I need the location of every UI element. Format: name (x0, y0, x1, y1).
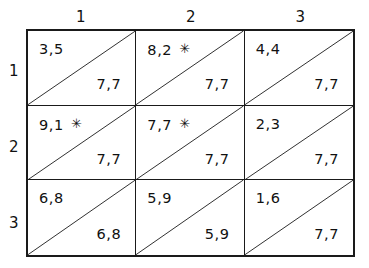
payoff-upper-left: 7,7✳ (147, 117, 190, 133)
payoff-lower-right: 7,7 (96, 77, 121, 92)
payoff-lower-right: 7,7 (96, 152, 121, 167)
row-header-1: 1 (4, 62, 24, 80)
payoff-lower-right: 7,7 (314, 77, 339, 92)
payoff-upper-left: 8,2✳ (147, 42, 190, 58)
payoff-lower-right: 5,9 (205, 227, 230, 242)
matrix-cell-r2c2: 7,7✳ 7,7 (136, 106, 244, 181)
matrix-cell-r1c3: 4,4 7,7 (245, 31, 353, 106)
payoff-upper-left-value: 2,3 (256, 116, 281, 132)
payoff-upper-left-value: 8,2 (147, 42, 172, 58)
payoff-upper-left: 1,6 (256, 191, 281, 206)
payoff-lower-right: 7,7 (205, 77, 230, 92)
matrix-cell-r1c1: 3,5 7,7 (28, 31, 136, 106)
matrix-grid: 3,5 7,7 8,2✳ 7,7 4,4 7,7 (26, 29, 355, 257)
matrix-cell-r3c2: 5,9 5,9 (136, 180, 244, 255)
payoff-upper-left-value: 6,8 (39, 190, 64, 206)
payoff-upper-left: 4,4 (256, 42, 281, 57)
matrix-cell-r3c1: 6,8 6,8 (28, 180, 136, 255)
equilibrium-star-icon: ✳ (71, 117, 83, 130)
payoff-upper-left: 5,9 (147, 191, 172, 206)
payoff-upper-left-value: 9,1 (39, 117, 64, 133)
equilibrium-star-icon: ✳ (179, 42, 191, 55)
payoff-upper-left: 3,5 (39, 42, 64, 57)
equilibrium-star-icon: ✳ (179, 117, 191, 130)
payoff-upper-left-value: 1,6 (256, 190, 281, 206)
payoff-lower-right: 7,7 (205, 152, 230, 167)
row-header-2: 2 (4, 138, 24, 156)
matrix-cell-r3c3: 1,6 7,7 (245, 180, 353, 255)
payoff-upper-left-value: 3,5 (39, 41, 64, 57)
column-header-2: 2 (136, 8, 246, 26)
payoff-lower-right: 7,7 (314, 152, 339, 167)
payoff-upper-left-value: 4,4 (256, 41, 281, 57)
payoff-upper-left-value: 7,7 (147, 117, 172, 133)
payoff-upper-left: 9,1✳ (39, 117, 82, 133)
payoff-matrix-figure: 1 2 3 1 2 3 3,5 7,7 8,2✳ 7,7 (0, 0, 369, 268)
column-header-3: 3 (246, 8, 355, 26)
payoff-upper-left: 6,8 (39, 191, 64, 206)
matrix-cell-r2c1: 9,1✳ 7,7 (28, 106, 136, 181)
matrix-cell-r1c2: 8,2✳ 7,7 (136, 31, 244, 106)
column-header-1: 1 (26, 8, 136, 26)
payoff-lower-right: 6,8 (96, 227, 121, 242)
row-header-3: 3 (4, 214, 24, 232)
payoff-upper-left: 2,3 (256, 117, 281, 132)
matrix-cell-r2c3: 2,3 7,7 (245, 106, 353, 181)
payoff-lower-right: 7,7 (314, 227, 339, 242)
payoff-upper-left-value: 5,9 (147, 190, 172, 206)
